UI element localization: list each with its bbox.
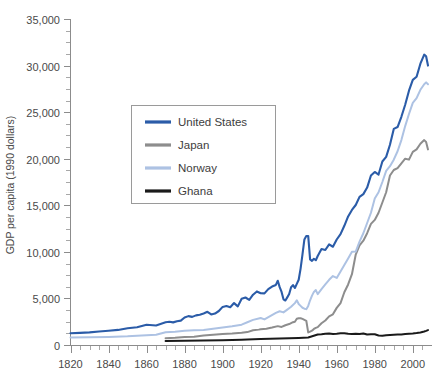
x-tick-label: 1840	[96, 358, 120, 370]
x-tick-label: 1880	[172, 358, 196, 370]
y-tick-label: 20,000	[26, 154, 60, 166]
legend-label-ghana: Ghana	[178, 185, 213, 197]
x-tick-label: 1940	[286, 358, 310, 370]
chart-container: GDP per capita (1990 dollars) 05,00010,0…	[0, 0, 437, 378]
x-tick-label: 1960	[324, 358, 348, 370]
x-tick-label: 1920	[248, 358, 272, 370]
x-tick-label: 2000	[401, 358, 425, 370]
y-axis-title: GDP per capita (1990 dollars)	[4, 116, 16, 255]
x-tick-label: 1860	[134, 358, 158, 370]
legend-label-japan: Japan	[178, 139, 209, 151]
gdp-per-capita-line-chart: GDP per capita (1990 dollars) 05,00010,0…	[0, 0, 437, 378]
chart-legend: United StatesJapanNorwayGhana	[132, 106, 276, 204]
x-tick-label: 1900	[210, 358, 234, 370]
legend-label-norway: Norway	[178, 162, 217, 174]
y-tick-label: 0	[54, 340, 60, 352]
x-tick-label: 1980	[363, 358, 387, 370]
y-tick-label: 30,000	[26, 61, 60, 73]
y-tick-label: 25,000	[26, 107, 60, 119]
y-tick-label: 15,000	[26, 200, 60, 212]
y-tick-label: 5,000	[32, 293, 60, 305]
legend-label-united-states: United States	[178, 116, 247, 128]
y-tick-label: 10,000	[26, 247, 60, 259]
x-tick-label: 1820	[58, 358, 82, 370]
y-tick-label: 35,000	[26, 14, 60, 26]
